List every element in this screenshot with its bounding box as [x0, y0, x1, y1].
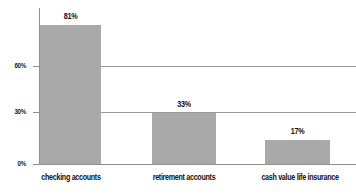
- y-tick-label-60: 60%: [1, 61, 26, 70]
- y-tick-mark-30: [33, 112, 39, 113]
- y-axis-line: [39, 8, 40, 165]
- bar-checking-accounts[interactable]: [40, 25, 101, 164]
- category-label-checking-accounts: checking accounts: [33, 172, 109, 182]
- bar-value-label-cash-value-life-insurance: 17%: [272, 126, 324, 136]
- plot-area: [40, 8, 356, 165]
- bar-chart: 60% 30% 0% 81% 33% 17% checking accounts…: [0, 0, 356, 195]
- bar-retirement-accounts[interactable]: [152, 113, 216, 164]
- y-tick-mark-0: [33, 164, 39, 165]
- y-tick-label-0: 0%: [1, 159, 26, 168]
- bar-cash-value-life-insurance[interactable]: [265, 140, 330, 164]
- gridline-baseline-0: [40, 164, 356, 165]
- y-tick-mark-60: [33, 66, 39, 67]
- bar-value-label-checking-accounts: 81%: [46, 11, 95, 21]
- category-label-retirement-accounts: retirement accounts: [146, 172, 222, 182]
- y-tick-label-30: 30%: [1, 107, 26, 116]
- bar-value-label-retirement-accounts: 33%: [158, 99, 209, 109]
- category-label-cash-value-life-insurance: cash value life insurance: [255, 172, 344, 182]
